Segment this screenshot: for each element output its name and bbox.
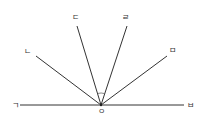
ray-label: ㄱ — [12, 101, 19, 110]
ray-line — [77, 26, 101, 105]
ray-label: ㄷ — [72, 13, 79, 22]
center-label: ㅇ — [98, 107, 105, 116]
center-point — [100, 104, 102, 106]
ray-line — [36, 56, 101, 105]
ray-label: ㄹ — [122, 13, 129, 22]
angle-mark — [98, 93, 105, 94]
labels: ㄱㄴㄷㄹㅁㅂ — [12, 13, 194, 110]
geometry-diagram: ㄱㄴㄷㄹㅁㅂ ㅇ — [0, 0, 201, 123]
ray-line — [101, 56, 167, 105]
ray-label: ㅁ — [169, 46, 176, 55]
ray-label: ㅂ — [187, 101, 194, 110]
ray-label: ㄴ — [24, 47, 31, 56]
ray-line — [101, 26, 127, 105]
